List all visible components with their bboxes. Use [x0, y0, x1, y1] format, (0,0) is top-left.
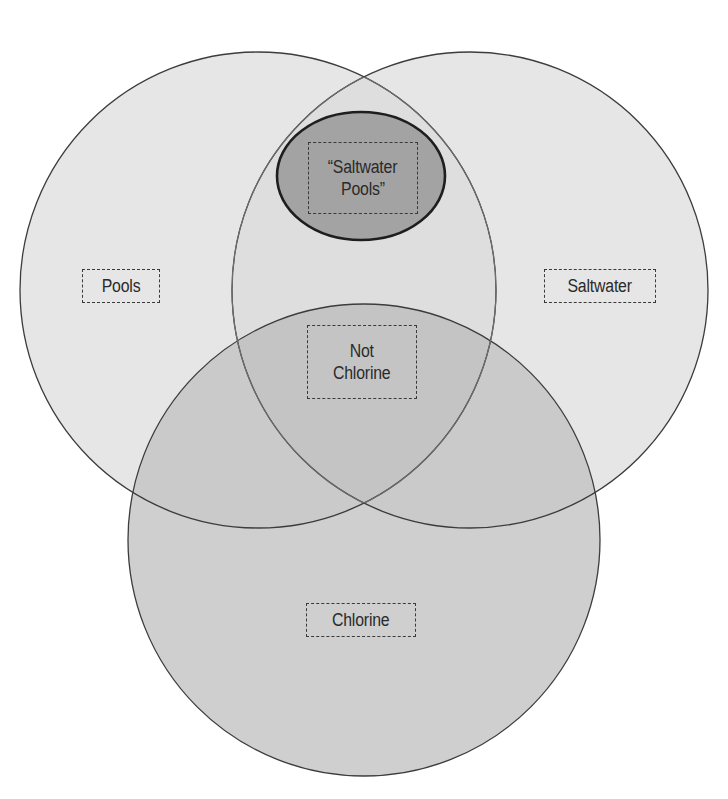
saltwater-pools-label-line2: Pools”: [341, 178, 385, 200]
saltwater-label-box: Saltwater: [544, 269, 656, 303]
saltwater-pools-label-box: “Saltwater Pools”: [308, 142, 418, 214]
chlorine-label-box: Chlorine: [306, 603, 416, 637]
venn-diagram-svg: [0, 0, 728, 799]
venn-diagram: Pools Saltwater Not Chlorine “Saltwater …: [0, 0, 728, 799]
saltwater-label: Saltwater: [568, 275, 632, 297]
not-chlorine-label-box: Not Chlorine: [307, 325, 417, 399]
not-chlorine-label-line1: Not: [350, 340, 374, 362]
chlorine-label: Chlorine: [332, 609, 390, 631]
pools-label: Pools: [102, 275, 141, 297]
not-chlorine-label-line2: Chlorine: [333, 362, 391, 384]
pools-label-box: Pools: [82, 269, 160, 303]
saltwater-pools-label-line1: “Saltwater: [328, 156, 398, 178]
